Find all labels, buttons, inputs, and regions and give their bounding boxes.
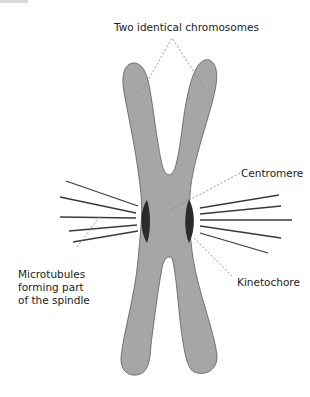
label-kinetochore: Kinetochore xyxy=(237,276,300,289)
microtubules-right xyxy=(200,195,292,253)
chromosome-diagram xyxy=(0,0,310,397)
label-centromere: Centromere xyxy=(241,167,303,180)
label-chromosomes: Two identical chromosomes xyxy=(114,21,259,34)
leader-microtubules xyxy=(77,215,101,247)
leader-kinetochore xyxy=(194,238,232,276)
label-microtubules: Microtubules forming part of the spindle xyxy=(18,268,90,307)
microtubules-left xyxy=(60,181,138,242)
